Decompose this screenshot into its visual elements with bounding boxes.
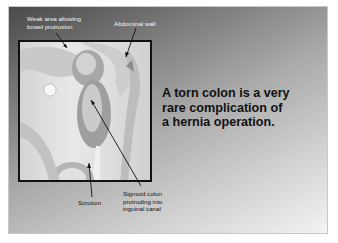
label-weak-area-line-2: bowel protrusion — [27, 23, 81, 31]
headline-line-1: A torn colon is a very — [162, 86, 322, 101]
hernia-illustration — [18, 40, 152, 182]
slide: Weak area allowing bowel protrusion Abdo… — [9, 7, 327, 233]
label-abdominal-wall: Abdominal wall — [114, 20, 156, 28]
label-sigmoid-line-3: inguinal canal — [123, 205, 163, 213]
label-sigmoid-line-2: protruding into — [123, 198, 163, 206]
headline-line-2: rare complication of — [162, 101, 322, 116]
label-sigmoid-line-1: Sigmoid colon — [123, 190, 163, 198]
label-scrotum: Scrotum — [78, 199, 101, 207]
headline-line-3: a hernia operation. — [162, 115, 322, 130]
label-weak-area: Weak area allowing bowel protrusion — [27, 15, 81, 30]
headline: A torn colon is a very rare complication… — [162, 86, 322, 130]
anatomy-drawing — [20, 42, 152, 182]
label-sigmoid-colon: Sigmoid colon protruding into inguinal c… — [123, 190, 163, 213]
label-weak-area-line-1: Weak area allowing — [27, 15, 81, 23]
